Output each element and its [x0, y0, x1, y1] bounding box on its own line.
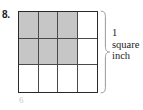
- brace-label: 1 square inch: [112, 27, 143, 62]
- problem-number: 8.: [2, 10, 10, 20]
- page-number: 6: [19, 95, 24, 105]
- grid-cell: [78, 12, 98, 39]
- grid-cell: [58, 39, 78, 66]
- brace-label-line-3: inch: [112, 50, 143, 62]
- area-model-grid: [18, 11, 98, 93]
- grid-cell: [19, 12, 39, 39]
- grid-cell: [39, 65, 59, 92]
- top-edge-artifact: [12, 0, 68, 4]
- grid-cell: [78, 39, 98, 66]
- grid-cell: [78, 65, 98, 92]
- brace-label-line-2: square: [112, 39, 143, 51]
- grid-cell: [58, 12, 78, 39]
- brace-label-line-1: 1: [112, 27, 143, 39]
- grid-cell: [39, 12, 59, 39]
- right-curly-brace-icon: [100, 10, 111, 94]
- grid-cell: [39, 39, 59, 66]
- grid-cell: [19, 39, 39, 66]
- grid-cell: [58, 65, 78, 92]
- grid-cell: [19, 65, 39, 92]
